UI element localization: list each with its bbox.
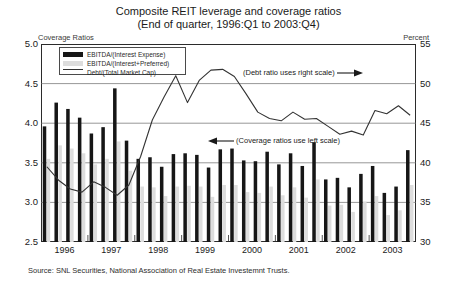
bar-ebitda-interest-preferred [187, 186, 191, 242]
y-axis-tick-right: 50 [420, 78, 456, 89]
x-axis-tick-1999: 1999 [195, 245, 215, 255]
bar-ebitda-interest-preferred [82, 153, 86, 242]
bar-ebitda-interest-preferred [94, 164, 98, 242]
bar-ebitda-interest-expense [336, 178, 340, 242]
bar-ebitda-interest-expense [125, 141, 129, 242]
bar-ebitda-interest-preferred [375, 196, 379, 242]
bar-ebitda-interest-expense [113, 88, 117, 242]
annotation-coverage-left-scale: (Coverage ratios use left scale) [208, 136, 340, 145]
bar-ebitda-interest-preferred [70, 149, 74, 242]
bar-ebitda-interest-preferred [410, 185, 414, 242]
y-axis-tick-left: 3.0 [0, 196, 38, 207]
arrow-left-icon [208, 137, 234, 145]
bar-ebitda-interest-preferred [281, 195, 285, 242]
bar-ebitda-interest-expense [90, 133, 94, 242]
bar-ebitda-interest-expense [324, 179, 328, 242]
bar-ebitda-interest-expense [254, 161, 258, 242]
legend-swatch-line-icon [63, 69, 83, 75]
y-axis-tick-right: 55 [420, 38, 456, 49]
bar-ebitda-interest-expense [371, 166, 375, 242]
bar-ebitda-interest-expense [347, 187, 351, 242]
bar-ebitda-interest-expense [207, 168, 211, 242]
bar-ebitda-interest-expense [242, 160, 246, 242]
bar-ebitda-interest-expense [219, 149, 223, 242]
bar-ebitda-interest-preferred [246, 192, 250, 242]
bar-ebitda-interest-preferred [199, 187, 203, 242]
left-axis-label: Coverage Ratios [38, 33, 94, 42]
bar-ebitda-interest-expense [394, 187, 398, 242]
annotation-debt-right-scale: (Debt ratio uses right scale) [243, 68, 363, 77]
bar-ebitda-interest-expense [66, 109, 70, 242]
y-axis-tick-right: 45 [420, 117, 456, 128]
bar-ebitda-interest-expense [406, 150, 410, 242]
chart-title-block: Composite REIT leverage and coverage rat… [0, 5, 457, 31]
legend-item-ebitda-interest-preferred: EBITDA/(Interest+Preferred) [63, 59, 182, 67]
legend-label-2: Debt/(Total Market Cap) [87, 69, 156, 76]
x-axis-tick-2000: 2000 [242, 245, 262, 255]
bar-ebitda-interest-preferred [211, 197, 215, 242]
bar-ebitda-interest-expense [183, 153, 187, 242]
annotation-coverage-text: (Coverage ratios use left scale) [236, 136, 340, 145]
bar-ebitda-interest-expense [383, 193, 387, 242]
bar-ebitda-interest-expense [195, 155, 199, 242]
legend-label-0: EBITDA/(Interest Expense) [87, 51, 165, 58]
annotation-debt-text: (Debt ratio uses right scale) [243, 68, 335, 77]
y-axis-tick-left: 3.5 [0, 157, 38, 168]
bar-ebitda-interest-preferred [363, 202, 367, 242]
bar-ebitda-interest-preferred [258, 193, 262, 242]
y-axis-tick-right: 30 [420, 236, 456, 247]
y-axis-tick-left: 2.5 [0, 236, 38, 247]
bar-ebitda-interest-expense [43, 126, 47, 242]
bar-ebitda-interest-preferred [269, 187, 273, 242]
page-title: Composite REIT leverage and coverage rat… [0, 5, 457, 18]
y-axis-tick-right: 35 [420, 196, 456, 207]
bar-ebitda-interest-expense [312, 142, 316, 242]
bar-ebitda-interest-preferred [152, 187, 156, 242]
bar-ebitda-interest-preferred [58, 145, 62, 242]
bar-ebitda-interest-preferred [234, 185, 238, 242]
chart-legend: EBITDA/(Interest Expense) EBITDA/(Intere… [59, 47, 186, 75]
x-axis-tick-2002: 2002 [336, 245, 356, 255]
bar-ebitda-interest-expense [54, 103, 58, 242]
bar-ebitda-interest-preferred [387, 215, 391, 242]
bar-ebitda-interest-expense [148, 157, 152, 242]
y-axis-tick-left: 4.0 [0, 117, 38, 128]
x-axis-tick-1998: 1998 [148, 245, 168, 255]
chart-subtitle: (End of quarter, 1996:Q1 to 2003:Q4) [0, 18, 457, 31]
y-axis-tick-left: 4.5 [0, 78, 38, 89]
bar-ebitda-interest-expense [136, 159, 140, 242]
x-axis-tick-1997: 1997 [101, 245, 121, 255]
bar-ebitda-interest-preferred [316, 179, 320, 242]
x-axis-tick-2001: 2001 [289, 245, 309, 255]
bar-ebitda-interest-expense [230, 149, 234, 242]
bar-ebitda-interest-expense [101, 127, 105, 242]
bar-ebitda-interest-preferred [351, 212, 355, 242]
source-note: Source: SNL Securities, National Associa… [28, 266, 290, 275]
bar-ebitda-interest-preferred [47, 159, 51, 242]
bar-ebitda-interest-preferred [176, 187, 180, 242]
legend-item-debt-total-market-cap: Debt/(Total Market Cap) [63, 68, 182, 76]
legend-swatch-bar-light-icon [63, 61, 83, 66]
bar-ebitda-interest-expense [289, 153, 293, 242]
chart-figure: Composite REIT leverage and coverage rat… [0, 0, 457, 287]
bar-ebitda-interest-preferred [340, 205, 344, 242]
bar-ebitda-interest-preferred [328, 206, 332, 242]
bar-ebitda-interest-expense [172, 154, 176, 242]
bar-ebitda-interest-expense [78, 118, 82, 242]
bar-ebitda-interest-preferred [304, 198, 308, 242]
y-axis-tick-right: 40 [420, 157, 456, 168]
bar-ebitda-interest-expense [301, 166, 305, 242]
bar-ebitda-interest-preferred [140, 187, 144, 242]
x-axis-tick-1996: 1996 [54, 245, 74, 255]
y-axis-tick-left: 5.0 [0, 38, 38, 49]
bar-ebitda-interest-preferred [222, 185, 226, 242]
bar-ebitda-interest-preferred [398, 210, 402, 242]
arrow-right-icon [337, 69, 363, 77]
legend-swatch-bar-dark-icon [63, 52, 83, 57]
bar-ebitda-interest-preferred [105, 159, 109, 242]
bar-ebitda-interest-preferred [293, 187, 297, 242]
bar-ebitda-interest-preferred [164, 196, 168, 242]
bar-ebitda-interest-expense [359, 174, 363, 242]
bar-ebitda-interest-expense [277, 164, 281, 242]
bar-ebitda-interest-expense [160, 167, 164, 242]
